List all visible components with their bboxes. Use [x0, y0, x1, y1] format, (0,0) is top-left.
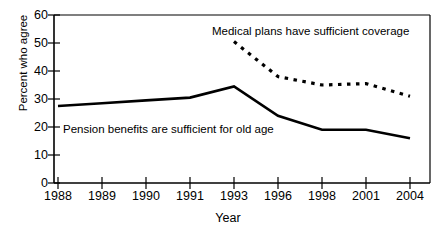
x-tick-label: 1990 [123, 189, 169, 203]
x-tick-label: 1989 [79, 189, 125, 203]
x-tick-label: 1996 [255, 189, 301, 203]
chart-container: Percent who agree 60 50 40 30 20 10 0 [0, 0, 438, 240]
x-tick-label: 1991 [167, 189, 213, 203]
x-tick-label: 2001 [343, 189, 389, 203]
x-tick-label: 1993 [211, 189, 257, 203]
x-axis-title: Year [168, 211, 288, 225]
x-tick-label: 2004 [387, 189, 433, 203]
series-annotation-medical: Medical plans have sufficient coverage [212, 25, 409, 38]
x-tick-label: 1988 [35, 189, 81, 203]
x-tick-label: 1998 [299, 189, 345, 203]
series-annotation-pension: Pension benefits are sufficient for old … [63, 123, 274, 136]
